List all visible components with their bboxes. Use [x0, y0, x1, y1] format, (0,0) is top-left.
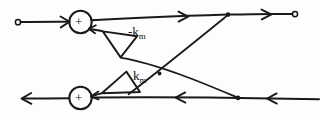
edge-right-to-bottom-sum — [92, 97, 319, 99]
gain-bottom-label: km — [133, 69, 146, 85]
sum-bottom-sign: + — [75, 91, 82, 104]
gain-top-label-sub: m — [139, 31, 146, 41]
node-crossing-dot — [158, 72, 162, 76]
bottom-signal-path — [22, 87, 319, 109]
diagram-canvas: + + -km km — [0, 0, 320, 120]
gain-top-label: -km — [128, 25, 146, 41]
sum-top-sign: + — [75, 15, 82, 28]
node-bottom-branch-dot — [236, 96, 241, 101]
top-signal-path — [15, 10, 297, 34]
gain-bottom-label-sub: m — [140, 75, 147, 85]
signal-flow-diagram — [0, 0, 320, 120]
gain-top-label-main: -k — [128, 24, 139, 39]
